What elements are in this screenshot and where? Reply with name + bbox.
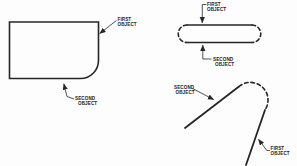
first-object-label-line2: OBJECT <box>271 151 290 156</box>
fillet-diagram-canvas: FIRST OBJECT SECOND OBJECT FIRST OBJECT … <box>0 0 297 166</box>
first-object-label-line2: OBJECT <box>118 22 137 27</box>
fillet-diagram-figure: FIRST OBJECT SECOND OBJECT FIRST OBJECT … <box>0 0 297 166</box>
second-object-label-line2: OBJECT <box>78 101 97 106</box>
first-object-label-line1: FIRST <box>271 146 285 151</box>
second-object-label-line1: SECOND <box>75 96 96 101</box>
second-object-label-line2: OBJECT <box>176 90 195 95</box>
first-object-label-line2: OBJECT <box>207 7 226 12</box>
second-object-label-line2: OBJECT <box>215 62 234 67</box>
